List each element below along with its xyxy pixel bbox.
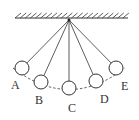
ceiling-hatch [51,13,57,18]
bob-b [34,75,48,89]
ceiling-hatch [15,13,21,18]
ceiling-hatch [77,13,83,18]
ceiling-hatch [66,13,72,18]
ceiling-hatch [41,13,47,18]
ceiling-hatch [102,13,108,18]
pivot-point [68,19,71,22]
ceiling-hatch [123,13,129,18]
pendulum-svg: ABCDE [0,0,139,120]
ceiling-support [15,13,129,18]
string-d [69,20,93,75]
pendulum-strings [27,20,111,81]
bob-a [15,61,29,75]
ceiling-hatch [56,13,62,18]
ceiling-hatch [20,13,26,18]
pendulum-diagram: ABCDE [0,0,139,120]
ceiling-hatch [36,13,42,18]
ceiling-hatch [30,13,36,18]
ceiling-hatch [72,13,78,18]
ceiling-hatch [25,13,31,18]
label-c: C [68,101,76,115]
bob-e [109,61,123,75]
string-b [44,20,69,76]
ceiling-hatch [87,13,93,18]
ceiling-hatch [113,13,119,18]
ceiling-hatch [118,13,124,18]
ceiling-hatch [97,13,103,18]
ceiling-hatch [61,13,67,18]
bob-c [62,81,76,95]
ceiling-hatch [46,13,52,18]
string-e [69,20,111,63]
ceiling-hatch [107,13,113,18]
label-a: A [11,78,20,92]
ceiling-hatch [92,13,98,18]
label-d: D [100,92,109,106]
label-b: B [35,93,43,107]
string-a [27,20,69,63]
bob-d [89,74,103,88]
ceiling-hatch [82,13,88,18]
label-e: E [121,79,128,93]
